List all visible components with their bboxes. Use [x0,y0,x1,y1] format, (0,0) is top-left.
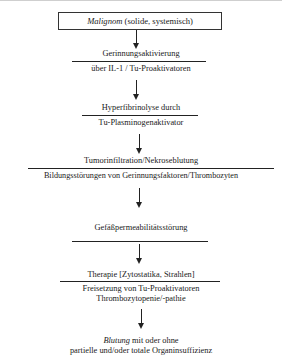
step-4-above: Gefäßpermeabilitätsstörung [0,223,282,233]
outcome-line-2: partielle und/oder totale Organinsuffizi… [0,346,282,356]
arrow-down-icon [133,30,140,50]
arrow-down-icon [136,188,143,210]
malignom-box: Malignom (solide, systemisch) [58,12,222,30]
step-4-divider [72,241,208,242]
malignom-label: Malignom [87,16,122,26]
step-2-below: Tu-Plasminogenaktivator [0,118,282,128]
step-1-above: Gerinnungsaktivierung [0,49,282,59]
step-2-divider [82,115,198,116]
outcome-line-1: Blutung mit oder ohne [0,336,282,346]
malignom-qualifier: (solide, systemisch) [122,16,192,26]
arrow-down-icon [133,80,140,102]
step-3-below: Bildungsstörungen von Gerinnungsfaktoren… [0,171,282,181]
arrow-down-icon [136,244,143,266]
step-1-below: über IL-1 / Tu-Proaktivatoren [0,64,282,74]
arrow-down-icon [138,309,145,331]
outcome-qualifier: mit oder ohne [130,336,179,345]
step-1-divider [72,61,206,62]
step-2-above: Hyperfibrinolyse durch [0,103,282,113]
step-3-divider [28,168,274,169]
arrow-down-icon [136,134,143,156]
step-3-above: Tumorinfiltration/Nekroseblutung [0,156,282,166]
cropped-text-line [0,0,282,4]
step-5-below-2: Thrombozytopenie/-pathie [0,294,282,304]
step-5-above: Therapie [Zytostatika, Strahlen] [0,270,282,280]
step-5-below: Freisetzung von Tu-Proaktivatoren [0,284,282,294]
outcome-bleeding: Blutung [103,336,130,345]
step-5-divider [60,281,220,282]
